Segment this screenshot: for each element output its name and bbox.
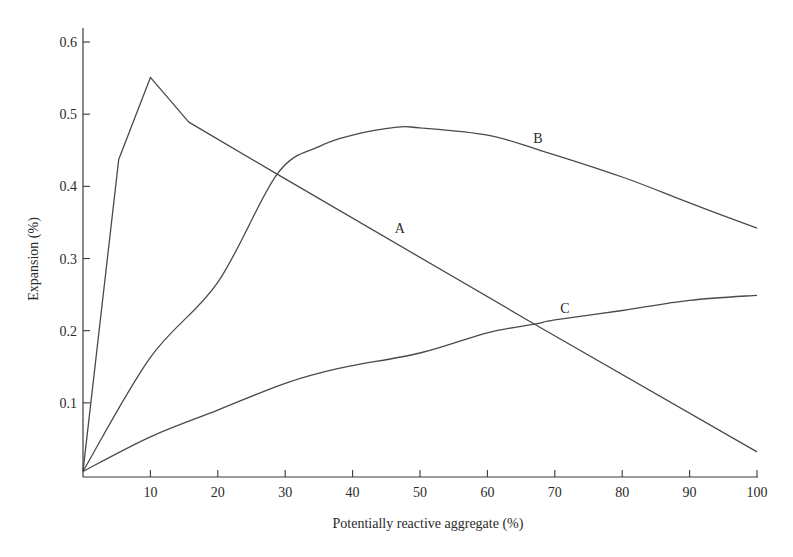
axes: 102030405060708090100 0.10.20.30.40.50.6: [60, 28, 768, 500]
series-label-c: C: [560, 301, 569, 316]
x-tick-label: 70: [548, 485, 562, 500]
y-tick-label: 0.4: [60, 179, 78, 194]
x-tick-label: 50: [413, 485, 427, 500]
y-tick-label: 0.1: [60, 396, 78, 411]
y-ticks: 0.10.20.30.40.50.6: [60, 35, 91, 411]
y-tick-label: 0.3: [60, 252, 78, 267]
x-tick-label: 60: [480, 485, 494, 500]
series-line-b: [83, 127, 757, 472]
y-tick-label: 0.2: [60, 324, 78, 339]
x-tick-label: 10: [143, 485, 157, 500]
y-axis-title: Expansion (%): [26, 217, 42, 301]
y-tick-label: 0.5: [60, 107, 78, 122]
y-tick-label: 0.6: [60, 35, 78, 50]
x-tick-label: 20: [211, 485, 225, 500]
series-line-a: [83, 77, 757, 471]
series-label-b: B: [533, 131, 542, 146]
series-label-a: A: [395, 221, 406, 236]
x-tick-label: 100: [747, 485, 768, 500]
x-tick-label: 30: [278, 485, 292, 500]
x-tick-label: 80: [615, 485, 629, 500]
series-line-c: [83, 295, 757, 471]
series-labels: ABC: [395, 131, 570, 316]
x-tick-label: 40: [346, 485, 360, 500]
x-tick-label: 90: [683, 485, 697, 500]
x-axis-title: Potentially reactive aggregate (%): [333, 516, 524, 532]
chart: 102030405060708090100 0.10.20.30.40.50.6…: [0, 0, 793, 557]
x-ticks: 102030405060708090100: [143, 470, 767, 500]
series-group: [83, 77, 757, 471]
